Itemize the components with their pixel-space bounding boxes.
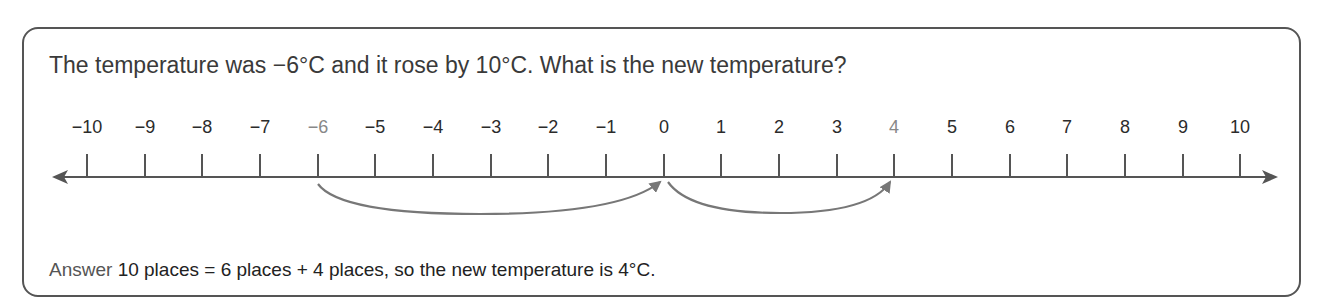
answer-label: Answer <box>49 259 112 280</box>
ticks <box>87 154 1240 177</box>
answer-text: 10 places = 6 places + 4 places, so the … <box>118 259 656 280</box>
jump-arc-6 <box>318 182 660 214</box>
answer-line: Answer 10 places = 6 places + 4 places, … <box>49 259 655 281</box>
jump-arc-4 <box>668 182 890 213</box>
